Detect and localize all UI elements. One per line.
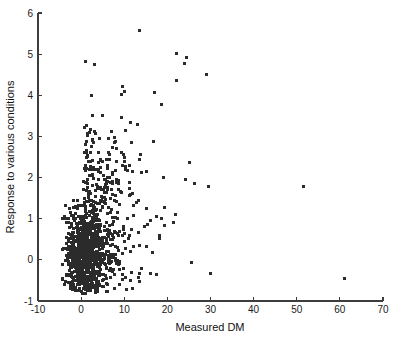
data-point bbox=[106, 233, 109, 236]
data-point bbox=[151, 251, 154, 254]
data-point bbox=[111, 238, 114, 241]
data-point bbox=[88, 229, 91, 232]
data-point bbox=[117, 179, 120, 182]
data-point bbox=[121, 164, 124, 167]
data-point bbox=[61, 277, 64, 280]
x-tick-label: 20 bbox=[162, 304, 174, 315]
data-point bbox=[108, 153, 111, 156]
data-point bbox=[67, 240, 70, 243]
data-point bbox=[105, 240, 108, 243]
data-point bbox=[75, 252, 78, 255]
data-point bbox=[104, 274, 107, 277]
data-point bbox=[117, 249, 120, 252]
data-point bbox=[72, 250, 75, 253]
data-point bbox=[69, 211, 72, 214]
data-point bbox=[132, 245, 135, 248]
data-point bbox=[121, 273, 124, 276]
data-point bbox=[111, 223, 114, 226]
data-point bbox=[99, 230, 102, 233]
data-point bbox=[105, 277, 108, 280]
data-point bbox=[91, 114, 94, 117]
data-point bbox=[140, 267, 143, 270]
data-point bbox=[89, 221, 92, 224]
data-point bbox=[100, 243, 103, 246]
data-point bbox=[114, 245, 117, 248]
data-point bbox=[145, 245, 148, 248]
data-point bbox=[68, 207, 71, 210]
data-point bbox=[80, 253, 83, 256]
data-point bbox=[88, 284, 91, 287]
data-point bbox=[163, 206, 166, 209]
data-point bbox=[207, 185, 210, 188]
data-point bbox=[114, 257, 117, 260]
data-point bbox=[132, 204, 135, 207]
data-point bbox=[78, 241, 81, 244]
data-point bbox=[89, 258, 92, 261]
data-point bbox=[112, 220, 115, 223]
data-point bbox=[93, 284, 96, 287]
data-point bbox=[110, 208, 113, 211]
data-point bbox=[85, 151, 88, 154]
data-point bbox=[93, 207, 96, 210]
data-point bbox=[118, 268, 121, 271]
data-point bbox=[82, 280, 85, 283]
data-point bbox=[107, 206, 110, 209]
data-point bbox=[90, 145, 93, 148]
data-point bbox=[90, 232, 93, 235]
y-tick-label: 4 bbox=[27, 90, 33, 101]
data-point bbox=[138, 29, 141, 32]
data-point bbox=[70, 285, 73, 288]
data-point bbox=[67, 281, 70, 284]
data-point bbox=[103, 225, 106, 228]
y-tick-label: 1 bbox=[27, 213, 33, 224]
data-point bbox=[90, 264, 93, 267]
data-point bbox=[143, 225, 146, 228]
data-point bbox=[68, 269, 71, 272]
data-point bbox=[68, 237, 71, 240]
data-point bbox=[109, 276, 112, 279]
data-point bbox=[89, 165, 92, 168]
data-point bbox=[97, 223, 100, 226]
data-point bbox=[172, 221, 175, 224]
data-point bbox=[117, 182, 120, 185]
scatter-plot-figure: -10010203040506070 -10123456 Measured DM… bbox=[0, 0, 400, 342]
data-point bbox=[91, 139, 94, 142]
data-point bbox=[86, 265, 89, 268]
data-point bbox=[84, 210, 87, 213]
data-point bbox=[82, 282, 85, 285]
data-point bbox=[117, 188, 120, 191]
data-point bbox=[97, 151, 100, 154]
data-point bbox=[85, 270, 88, 273]
data-point bbox=[89, 151, 92, 154]
data-point bbox=[99, 158, 102, 161]
data-point bbox=[64, 280, 67, 283]
x-tick-label: -10 bbox=[31, 304, 46, 315]
data-point bbox=[113, 136, 116, 139]
data-point bbox=[87, 160, 90, 163]
data-point bbox=[183, 62, 186, 65]
data-point bbox=[102, 254, 105, 257]
data-point bbox=[120, 191, 123, 194]
data-point bbox=[91, 277, 94, 280]
data-point bbox=[78, 244, 81, 247]
data-point bbox=[95, 242, 98, 245]
x-tick-label: 70 bbox=[377, 304, 389, 315]
data-point bbox=[91, 242, 94, 245]
data-point bbox=[84, 165, 87, 168]
data-point bbox=[99, 166, 102, 169]
data-point bbox=[77, 204, 80, 207]
data-point bbox=[83, 167, 86, 170]
data-point bbox=[120, 116, 123, 119]
data-point bbox=[82, 237, 85, 240]
data-point bbox=[120, 93, 123, 96]
data-point bbox=[145, 170, 148, 173]
data-point bbox=[130, 141, 133, 144]
data-point bbox=[92, 212, 95, 215]
data-point bbox=[105, 266, 108, 269]
data-point bbox=[109, 181, 112, 184]
data-point bbox=[190, 261, 193, 264]
data-point bbox=[160, 217, 163, 220]
data-point bbox=[74, 286, 77, 289]
y-axis-ticks: -10123456 bbox=[24, 8, 42, 307]
data-point bbox=[84, 288, 87, 291]
